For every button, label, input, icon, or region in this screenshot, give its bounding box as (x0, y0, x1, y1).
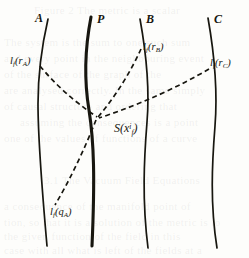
worldline-label-P: P (97, 13, 104, 25)
label-l-rB: lf(rB) (143, 42, 163, 54)
label-l-rA: lf(rA) (10, 56, 30, 68)
worldline-label-C: C (214, 13, 222, 25)
fn-close-paren: ) (68, 206, 72, 217)
worldline-label-B: B (146, 13, 154, 25)
label-l-rC: lf(rC) (210, 58, 231, 70)
worldline-A (38, 19, 48, 246)
worldline-label-A: A (35, 12, 43, 24)
null-ray-qA (55, 120, 96, 205)
worldline-P (86, 17, 94, 246)
fn-close-paren: ) (27, 55, 31, 66)
null-ray-rB (98, 49, 141, 117)
event-close-paren: ) (134, 121, 138, 135)
figure-container: Figure 2 The metric is a scalarThe syste… (0, 0, 249, 258)
event-label-S: S(xif) (114, 122, 138, 136)
worldline-C (208, 18, 217, 248)
fn-close-paren: ) (160, 41, 164, 52)
fn-close-paren: ) (227, 57, 231, 68)
label-l-qA: lf(qA) (50, 207, 72, 219)
